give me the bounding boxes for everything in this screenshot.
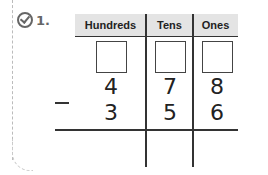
problem-number: 1.	[36, 13, 50, 28]
regroup-box-tens[interactable]	[155, 41, 186, 73]
minus-sign	[55, 102, 69, 104]
column-divider-hundreds-tens	[145, 14, 147, 167]
answer-line	[55, 129, 238, 131]
problem-label: 1.	[17, 12, 50, 28]
header-hundreds: Hundreds	[75, 14, 146, 36]
minuend-hundreds: 4	[96, 74, 126, 99]
page-margin-border	[12, 0, 14, 160]
check-circle-icon	[17, 12, 33, 28]
header-ones: Ones	[193, 14, 238, 36]
column-divider-tens-ones	[192, 14, 194, 167]
minuend-ones: 8	[202, 74, 232, 99]
regroup-box-ones[interactable]	[202, 41, 233, 73]
header-tens: Tens	[146, 14, 193, 36]
subtrahend-tens: 5	[155, 100, 185, 125]
place-value-header: Hundreds Tens Ones	[75, 14, 238, 37]
subtrahend-hundreds: 3	[96, 100, 126, 125]
minuend-tens: 7	[155, 74, 185, 99]
regroup-box-hundreds[interactable]	[96, 41, 127, 73]
page-margin-curve	[12, 140, 33, 171]
subtrahend-ones: 6	[202, 100, 232, 125]
